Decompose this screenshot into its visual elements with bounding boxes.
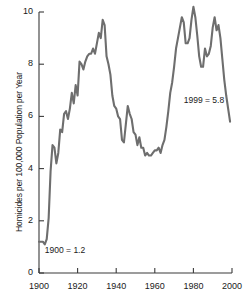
x-tick-label: 1940: [99, 281, 133, 291]
homicide-rate-chart: Homicides per 100,000 Population per Yea…: [0, 0, 248, 304]
x-tick-label: 1980: [176, 281, 210, 291]
start-value-annotation: 1900 = 1.2: [45, 245, 85, 255]
y-axis-title: Homicides per 100,000 Population per Yea…: [14, 0, 30, 304]
y-tick-label: 2: [9, 215, 33, 225]
y-tick-label: 8: [9, 58, 33, 68]
x-tick-label: 2000: [215, 281, 248, 291]
x-tick-label: 1920: [61, 281, 95, 291]
x-tick-label: 1960: [138, 281, 172, 291]
y-axis-ticks: [39, 12, 44, 273]
x-tick-label: 1900: [22, 281, 56, 291]
y-tick-label: 10: [9, 6, 33, 16]
axis-lines: [39, 12, 232, 273]
x-axis-ticks: [39, 268, 232, 273]
chart-plot-area: [0, 0, 248, 304]
y-tick-label: 0: [9, 267, 33, 277]
y-tick-label: 4: [9, 163, 33, 173]
y-tick-label: 6: [9, 110, 33, 120]
homicide-rate-line: [39, 7, 230, 245]
end-value-annotation: 1999 = 5.8: [184, 95, 224, 105]
